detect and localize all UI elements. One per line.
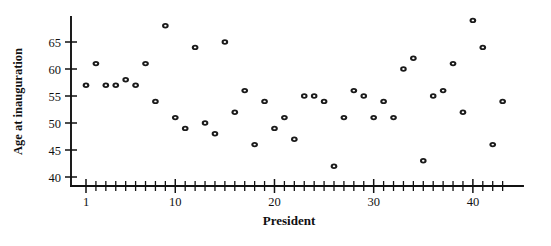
data-point: [222, 39, 229, 44]
data-point: [311, 93, 318, 98]
data-point: [380, 99, 387, 104]
data-point: [271, 126, 278, 131]
data-point: [351, 88, 358, 93]
data-point: [83, 83, 90, 88]
data-point: [232, 110, 239, 115]
data-point: [370, 115, 377, 120]
data-point: [212, 131, 219, 136]
data-point: [261, 99, 268, 104]
data-point: [499, 99, 506, 104]
x-tick-label: 30: [367, 195, 380, 209]
chart-canvas: 404550556065 110203040 President Age at …: [0, 0, 551, 246]
x-tick-label: 40: [467, 195, 480, 209]
data-point: [103, 83, 110, 88]
scatter-chart: 404550556065 110203040 President Age at …: [0, 0, 551, 246]
data-point: [152, 99, 159, 104]
x-tick-label: 10: [169, 195, 182, 209]
x-axis-title: President: [263, 213, 316, 228]
data-point: [162, 23, 169, 28]
data-point: [390, 115, 397, 120]
y-axis: 404550556065: [49, 17, 78, 186]
data-point: [301, 93, 308, 98]
data-point: [192, 45, 199, 50]
x-tick-label: 1: [83, 195, 89, 209]
y-tick-label: 40: [49, 171, 62, 185]
data-point: [460, 110, 467, 115]
x-axis: 110203040: [71, 179, 523, 209]
data-point: [480, 45, 487, 50]
data-point: [172, 115, 179, 120]
data-point: [241, 88, 248, 93]
data-point: [430, 93, 437, 98]
data-point: [470, 18, 477, 23]
data-points: [83, 18, 506, 169]
y-tick-label: 60: [49, 63, 62, 77]
y-tick-label: 55: [49, 90, 62, 104]
data-point: [410, 56, 417, 61]
data-point: [331, 164, 338, 169]
data-point: [489, 142, 496, 147]
data-point: [450, 61, 457, 66]
y-tick-label: 50: [49, 117, 62, 131]
data-point: [440, 88, 447, 93]
data-point: [93, 61, 100, 66]
x-tick-label: 20: [268, 195, 281, 209]
data-point: [281, 115, 288, 120]
data-point: [112, 83, 119, 88]
data-point: [132, 83, 139, 88]
data-point: [341, 115, 348, 120]
data-point: [321, 99, 328, 104]
data-point: [420, 158, 427, 163]
data-point: [202, 120, 209, 125]
y-axis-title: Age at inauguration: [11, 48, 25, 155]
data-point: [142, 61, 149, 66]
y-tick-label: 45: [49, 144, 62, 158]
data-point: [360, 93, 367, 98]
y-tick-label: 65: [49, 36, 62, 50]
data-point: [182, 126, 189, 131]
data-point: [400, 66, 407, 71]
data-point: [251, 142, 258, 147]
data-point: [122, 77, 129, 82]
data-point: [291, 137, 298, 142]
